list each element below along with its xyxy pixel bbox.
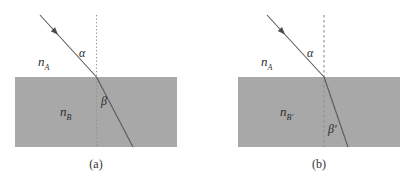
panel-b: nA nB′ α β′ (b) [238,15,400,171]
panel-b-incident-ray [267,15,324,77]
panel-b-upper-medium-label: nA [261,54,273,72]
panel-b-upper-medium-subscript: A [267,63,273,72]
panel-a-refracted-angle-label: β [100,94,107,108]
panel-b-medium-rect [238,77,400,147]
panel-a-upper-medium-subscript: A [44,63,50,72]
panel-b-caption: (b) [312,157,326,171]
panel-a: nA nB α β (a) [15,15,177,171]
panel-a-incident-angle-label: α [79,46,86,60]
panel-a-lower-medium-subscript: B [67,113,72,122]
refraction-diagram: nA nB α β (a) nA nB′ α β′ (b) [0,0,417,177]
panel-b-incident-angle-label: α [307,46,314,60]
panel-a-upper-medium-label: nA [38,54,50,72]
panel-b-lower-medium-subscript: B′ [287,113,294,122]
panel-a-medium-rect [15,77,177,147]
panel-b-refracted-angle-label: β′ [327,122,337,136]
panel-a-caption: (a) [89,157,102,171]
